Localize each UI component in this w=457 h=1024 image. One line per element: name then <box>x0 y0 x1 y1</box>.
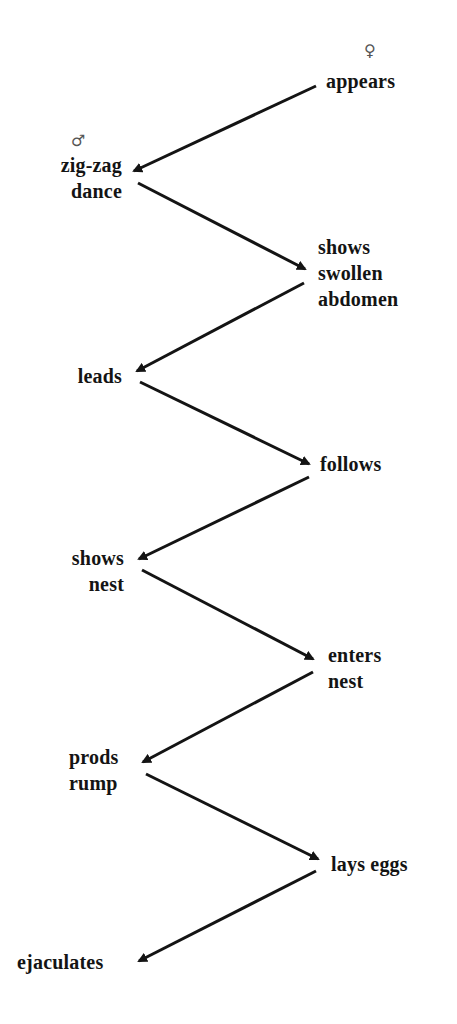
female-step-shows-swollen-abdomen: shows swollen abdomen <box>318 234 398 312</box>
female-step-lays-eggs: lays eggs <box>331 851 408 877</box>
male-step-zig-zag-dance: zig-zag dance <box>61 152 122 204</box>
female-step-follows: follows <box>320 451 381 477</box>
female-step-appears: appears <box>326 68 395 94</box>
arrow-zigzag-to-swollen <box>138 183 305 269</box>
arrow-swollen-to-leads <box>137 283 304 371</box>
arrow-enters-nest-to-prods-rump <box>143 672 313 762</box>
male-step-leads: leads <box>78 363 122 389</box>
arrow-follows-to-shows-nest <box>139 477 309 559</box>
male-step-ejaculates: ejaculates <box>17 949 103 975</box>
male-symbol-icon: ♂ <box>71 133 85 149</box>
arrow-shows-nest-to-enters-nest <box>142 570 313 659</box>
female-step-enters-nest: enters nest <box>328 642 381 694</box>
male-step-prods-rump: prods rump <box>69 744 119 796</box>
arrow-lays-eggs-to-ejaculates <box>139 871 316 961</box>
courtship-sequence-diagram: ♀ ♂ appears shows swollen abdomen follow… <box>0 0 457 1024</box>
arrow-prods-rump-to-lays-eggs <box>146 774 318 859</box>
male-step-shows-nest: shows nest <box>72 545 124 597</box>
arrow-leads-to-follows <box>140 382 309 464</box>
arrow-appears-to-zigzag <box>134 86 316 171</box>
female-symbol-icon: ♀ <box>364 43 376 59</box>
